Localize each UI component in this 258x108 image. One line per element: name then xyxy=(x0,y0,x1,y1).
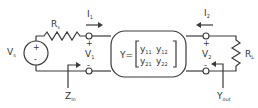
rl-label: RL xyxy=(245,49,254,60)
voltage-source: + - Vs xyxy=(7,36,48,71)
i2-arrowhead-icon xyxy=(196,22,201,28)
i1-label: I1 xyxy=(87,9,93,20)
source-resistor: Rs xyxy=(36,19,86,40)
zin-arrowhead-icon xyxy=(76,62,81,68)
v2-plus: + xyxy=(203,39,210,48)
two-port-circuit-diagram: + - Vs Rs + - V1 I1 Zin Y= y11 y12 y21 xyxy=(0,0,258,108)
rs-label: Rs xyxy=(51,19,60,30)
source-plus: + xyxy=(33,43,40,52)
yout-label: Yout xyxy=(216,91,231,102)
y11: y11 xyxy=(140,44,152,55)
y12: y12 xyxy=(156,44,168,55)
v2-minus: - xyxy=(204,61,207,70)
i1-arrowhead-icon xyxy=(98,22,103,28)
zin-arrow-icon xyxy=(68,65,76,88)
v2-label: V2 xyxy=(202,49,211,60)
zin-label: Zin xyxy=(65,91,76,102)
matrix-left-bracket-icon xyxy=(136,41,139,67)
v1-label: V1 xyxy=(85,49,94,60)
i2-label: I2 xyxy=(204,8,210,19)
v1-plus: + xyxy=(86,39,93,48)
source-label: Vs xyxy=(7,47,16,58)
port1: + - V1 I1 Zin xyxy=(65,9,111,102)
yout-arrow-icon xyxy=(216,64,223,88)
port2: + - V2 I2 Yout xyxy=(186,8,231,102)
resistor-rl-icon xyxy=(209,36,240,71)
resistor-rs-icon xyxy=(36,32,86,40)
yout-arrowhead-icon xyxy=(211,61,216,67)
y21: y21 xyxy=(140,56,152,67)
source-minus: - xyxy=(34,55,37,64)
v1-minus: - xyxy=(87,61,90,70)
matrix-right-bracket-icon xyxy=(173,41,176,67)
two-port-network: Y= y11 y12 y21 y22 xyxy=(111,31,186,77)
y22: y22 xyxy=(156,56,168,67)
network-prefix: Y= xyxy=(119,50,133,60)
